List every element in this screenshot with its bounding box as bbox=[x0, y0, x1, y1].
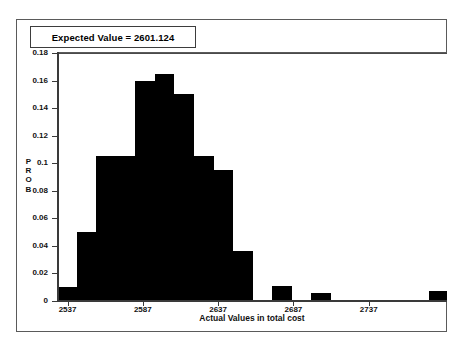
histogram-bar bbox=[214, 170, 234, 301]
y-tick-mark bbox=[52, 218, 58, 219]
x-axis-title: Actual Values in total cost bbox=[57, 313, 447, 323]
expected-value-box: Expected Value = 2601.124 bbox=[30, 26, 196, 48]
y-axis-title: PROB bbox=[23, 157, 34, 194]
axis-top-line bbox=[57, 52, 447, 53]
histogram-bar bbox=[155, 74, 175, 301]
y-tick-mark bbox=[52, 53, 58, 54]
y-axis-title-letter: O bbox=[23, 175, 34, 184]
y-tick-mark bbox=[52, 81, 58, 82]
y-tick-mark bbox=[52, 136, 58, 137]
y-tick-label: 0.12 bbox=[8, 132, 48, 140]
y-axis-title-letter: B bbox=[23, 185, 34, 194]
histogram-bar bbox=[233, 251, 253, 301]
histogram-bar bbox=[194, 156, 214, 301]
y-tick-mark bbox=[52, 301, 58, 302]
y-axis-line bbox=[57, 52, 59, 302]
histogram-bar bbox=[116, 156, 136, 301]
histogram-bar bbox=[77, 232, 97, 301]
expected-value-label: Expected Value = 2601.124 bbox=[52, 32, 175, 43]
y-tick-label: 0 bbox=[8, 297, 48, 305]
histogram-bar bbox=[96, 156, 116, 301]
y-tick-label: 0.04 bbox=[8, 242, 48, 250]
y-tick-label: 0.16 bbox=[8, 77, 48, 85]
y-tick-label: 0.18 bbox=[8, 49, 48, 57]
histogram-bars bbox=[57, 53, 447, 301]
y-tick-label: 0.14 bbox=[8, 104, 48, 112]
y-tick-label: 0.02 bbox=[8, 269, 48, 277]
histogram-bar bbox=[174, 94, 194, 301]
y-tick-mark bbox=[52, 191, 58, 192]
y-tick-mark bbox=[52, 273, 58, 274]
histogram-bar bbox=[57, 287, 77, 301]
x-axis-line bbox=[57, 300, 447, 302]
histogram-bar bbox=[135, 81, 155, 301]
histogram-bar bbox=[272, 286, 292, 301]
y-axis-title-letter: P bbox=[23, 157, 34, 166]
y-tick-mark bbox=[52, 246, 58, 247]
y-tick-mark bbox=[52, 163, 58, 164]
y-axis-title-letter: R bbox=[23, 166, 34, 175]
y-tick-mark bbox=[52, 108, 58, 109]
y-tick-label: 0.06 bbox=[8, 214, 48, 222]
